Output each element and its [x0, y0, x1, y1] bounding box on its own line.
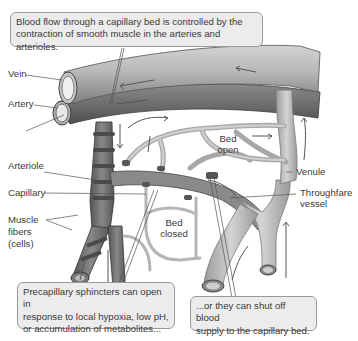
callout-bottom-left-line2: response to local hypoxia, low pH, [23, 311, 169, 323]
label-bed-open-line2: open [212, 144, 244, 155]
callout-top-line2: contraction of smooth muscle in the arte… [16, 28, 257, 53]
label-vein: Vein [8, 68, 27, 79]
label-bed-closed-line1: Bed [156, 217, 192, 228]
capillary-bed-diagram: Blood flow through a capillary bed is co… [0, 0, 358, 341]
callout-bottom-left-line1: Precapillary sphincters can open in [23, 286, 169, 311]
label-muscle-fibers-line2: fibers [8, 226, 38, 238]
label-thoroughfare-line2: vessel [300, 198, 352, 209]
label-arteriole: Arteriole [8, 160, 44, 171]
label-muscle-fibers: Muscle fibers (cells) [8, 214, 38, 250]
label-muscle-fibers-line3: (cells) [8, 238, 38, 250]
callout-bottom-left-line3: or accumulation of metabolites... [23, 323, 169, 335]
label-bed-closed: Bed closed [156, 217, 192, 239]
capillary-network [126, 125, 286, 170]
callout-top: Blood flow through a capillary bed is co… [10, 12, 263, 47]
label-venule: Venule [296, 166, 325, 177]
label-muscle-fibers-line1: Muscle [8, 214, 38, 226]
label-artery: Artery [8, 98, 34, 109]
label-thoroughfare-line1: Throughfare [300, 187, 352, 198]
label-bed-open-line1: Bed [212, 133, 244, 144]
callout-top-line1: Blood flow through a capillary bed is co… [16, 16, 257, 28]
arteriole-trunk [71, 122, 126, 300]
label-bed-closed-line2: closed [156, 228, 192, 239]
callout-bottom-left: Precapillary sphincters can open in resp… [17, 282, 175, 329]
callout-bottom-right: ...or they can shut off blood supply to … [190, 296, 317, 331]
callout-bottom-right-line2: supply to the capillary bed. [196, 325, 311, 337]
label-thoroughfare-vessel: Throughfare vessel [300, 187, 352, 209]
callout-bottom-right-line1: ...or they can shut off blood [196, 300, 311, 325]
label-capillary: Capillary [8, 187, 45, 198]
label-bed-open: Bed open [212, 133, 244, 155]
